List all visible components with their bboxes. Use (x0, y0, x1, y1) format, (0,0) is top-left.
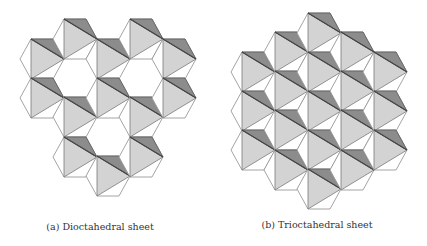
trioctahedral-sheet-panel (231, 13, 407, 209)
dioctahedral-sheet-panel (20, 19, 196, 196)
caption-dioctahedral: (a) Dioctahedral sheet (46, 221, 153, 232)
caption-trioctahedral: (b) Trioctahedral sheet (261, 219, 372, 230)
figure: (a) Dioctahedral sheet (b) Trioctahedral… (0, 0, 427, 246)
octahedral-sheets-diagram (0, 0, 427, 246)
